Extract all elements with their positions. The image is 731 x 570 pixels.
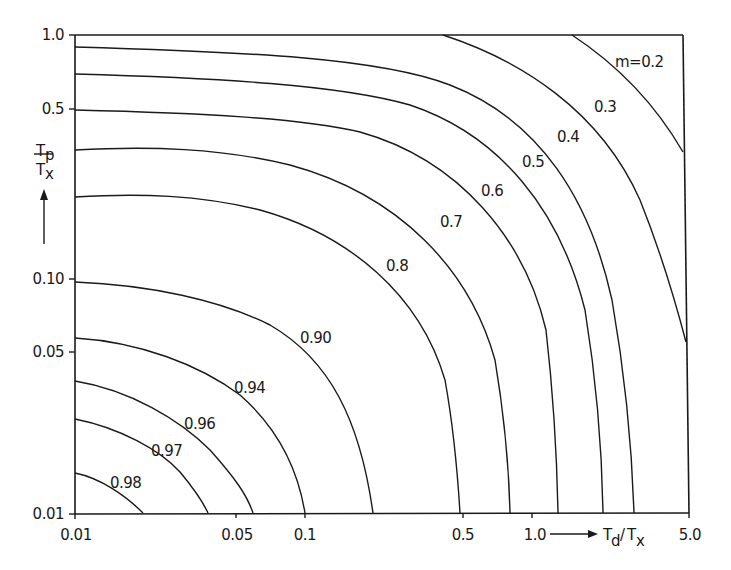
y-title-den-sub: x bbox=[45, 165, 54, 183]
x-tick-label: 0.5 bbox=[452, 526, 474, 544]
x-title-den-sub: x bbox=[636, 532, 645, 550]
curve-label-m-0.90: 0.90 bbox=[300, 329, 331, 347]
y-ticks: 1.0 0.5 0.10 0.05 0.01 bbox=[33, 26, 75, 523]
curve-label-m-0.5: 0.5 bbox=[522, 153, 544, 171]
y-tick-label: 0.10 bbox=[33, 270, 64, 288]
curve-labels: m=0.2 0.3 0.4 0.5 0.6 0.7 0.8 0.90 0.94 … bbox=[110, 53, 664, 492]
y-tick-label: 1.0 bbox=[42, 26, 64, 44]
curve-m-0.97 bbox=[75, 419, 208, 513]
x-axis bbox=[75, 513, 689, 514]
curve-label-m-0.98: 0.98 bbox=[110, 474, 141, 492]
curve-label-m-0.94: 0.94 bbox=[234, 379, 265, 397]
x-tick-label: 5.0 bbox=[679, 526, 701, 544]
y-title-num-sub: p bbox=[45, 146, 55, 164]
x-tick-label: 0.05 bbox=[221, 526, 252, 544]
x-tick-label: 0.1 bbox=[294, 526, 316, 544]
curve-label-m-0.96: 0.96 bbox=[184, 415, 215, 433]
y-axis-arrowhead-icon bbox=[40, 189, 48, 200]
y-tick-label: 0.05 bbox=[33, 343, 64, 361]
y-tick-label: 0.01 bbox=[33, 505, 64, 523]
right-border bbox=[683, 35, 689, 513]
curve-m-0.8 bbox=[75, 195, 460, 513]
curve-m-0.7 bbox=[75, 148, 510, 513]
x-axis-arrowhead-icon bbox=[588, 530, 598, 538]
curve-label-m-0.6: 0.6 bbox=[481, 182, 503, 200]
curve-m-0.6 bbox=[75, 110, 558, 513]
y-tick-label: 0.5 bbox=[42, 100, 64, 118]
curve-label-m-0.7: 0.7 bbox=[440, 213, 462, 231]
curve-label-m-0.8: 0.8 bbox=[386, 257, 408, 275]
curve-label-m-0.3: 0.3 bbox=[594, 98, 616, 116]
curve-m-0.3 bbox=[443, 35, 686, 342]
curve-label-m-0.2: m=0.2 bbox=[615, 53, 664, 71]
y-axis-title: T p T x bbox=[34, 142, 55, 244]
contour-chart: 1.0 0.5 0.10 0.05 0.01 0.01 0.05 0.1 0.5… bbox=[0, 0, 731, 570]
curve-label-m-0.4: 0.4 bbox=[557, 128, 579, 146]
x-tick-label: 0.01 bbox=[60, 526, 91, 544]
curve-label-m-0.97: 0.97 bbox=[151, 442, 182, 460]
x-tick-label: 1.0 bbox=[524, 526, 546, 544]
x-title-slash: / bbox=[620, 526, 626, 544]
x-axis-title: T d / T x bbox=[550, 526, 645, 550]
